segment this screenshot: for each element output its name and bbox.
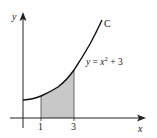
tick-label-3: 3 — [71, 121, 76, 132]
curve-name-label: C — [104, 18, 111, 29]
area-under-curve-diagram: y x 1 3 C y = x2 + 3 — [0, 0, 157, 138]
y-axis-label: y — [11, 11, 17, 22]
equation-equals: = — [90, 57, 100, 67]
equation-rest: + 3 — [108, 57, 123, 67]
equation-label: y = x2 + 3 — [85, 55, 123, 67]
x-axis-label: x — [137, 123, 143, 134]
tick-label-1: 1 — [38, 121, 43, 132]
